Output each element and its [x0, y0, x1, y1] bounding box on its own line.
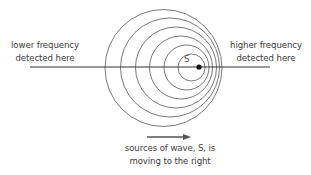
wavefront-circle	[105, 10, 222, 127]
higher-frequency-line2: detected here	[226, 52, 306, 65]
lower-frequency-label: lower frequency detected here	[4, 39, 86, 65]
lower-frequency-line1: lower frequency	[4, 39, 86, 52]
wavefront-circles	[105, 10, 222, 127]
source-motion-caption: sources of wave, S, is moving to the rig…	[110, 142, 230, 168]
motion-arrow-icon	[147, 134, 191, 140]
source-motion-line2: moving to the right	[110, 155, 230, 168]
source-motion-line1: sources of wave, S, is	[110, 142, 230, 155]
lower-frequency-line2: detected here	[4, 52, 86, 65]
source-dot	[196, 64, 201, 69]
source-label: S	[184, 54, 189, 64]
higher-frequency-line1: higher frequency	[226, 39, 306, 52]
higher-frequency-label: higher frequency detected here	[226, 39, 306, 65]
